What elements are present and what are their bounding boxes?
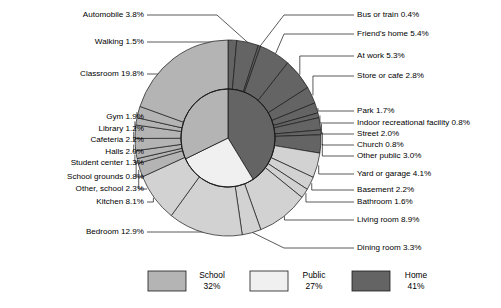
chart-label-cafeteria: Cafeteria 2.2% [90, 135, 144, 144]
chart-label-other-public: Other public 3.0% [357, 151, 421, 160]
legend-value-public: 27% [306, 281, 323, 291]
leader-line-friends-home [276, 34, 354, 54]
chart-label-indoor-rec: Indoor recreational facility 0.8% [357, 118, 470, 127]
legend-value-school: 32% [204, 281, 221, 291]
chart-label-student-center: Student center 1.3% [71, 158, 144, 167]
leader-line-store-or-cafe [313, 76, 354, 95]
labels-left-group: Automobile 3.8%Walking 1.5%Classroom 19.… [67, 10, 144, 236]
chart-label-gym: Gym 1.9% [106, 112, 144, 121]
nested-pie-chart: Automobile 3.8%Walking 1.5%Classroom 19.… [0, 0, 501, 308]
inner-pie-segments [181, 89, 275, 187]
chart-label-friends-home: Friend's home 5.4% [357, 29, 429, 38]
leader-line-living-room [284, 216, 354, 220]
chart-label-walking: Walking 1.5% [95, 37, 144, 46]
labels-right-group: Bus or train 0.4%Friend's home 5.4%At wo… [357, 10, 470, 252]
chart-label-kitchen: Kitchen 8.1% [96, 197, 144, 206]
leader-line-basement [312, 183, 354, 190]
leader-line-automobile [147, 15, 248, 43]
leader-line-dining-room [252, 232, 354, 248]
chart-label-automobile: Automobile 3.8% [83, 10, 144, 19]
chart-label-living-room: Living room 8.9% [357, 215, 420, 224]
chart-label-classroom: Classroom 19.8% [80, 69, 144, 78]
legend-swatch-public [250, 271, 288, 291]
chart-label-other-school: Other, school 2.3% [76, 184, 144, 193]
leader-line-at-work [300, 56, 354, 75]
legend-value-home: 41% [408, 281, 425, 291]
chart-label-halls: Halls 2.0% [105, 147, 144, 156]
leader-line-indoor-rec [320, 115, 354, 123]
chart-legend: School32%Public27%Home41% [148, 270, 428, 291]
legend-label-home: Home [405, 270, 428, 280]
leader-line-kitchen [147, 198, 153, 202]
chart-canvas: Automobile 3.8%Walking 1.5%Classroom 19.… [0, 0, 501, 308]
legend-label-school: School [199, 270, 225, 280]
chart-label-school-grounds: School grounds 0.8% [67, 172, 144, 181]
chart-label-street: Street 2.0% [357, 129, 399, 138]
leader-line-park [318, 108, 354, 111]
chart-label-park: Park 1.7% [357, 106, 394, 115]
chart-label-basement: Basement 2.2% [357, 185, 414, 194]
chart-label-dining-room: Dining room 3.3% [357, 243, 421, 252]
legend-swatch-school [148, 271, 186, 291]
chart-label-bathroom: Bathroom 1.6% [357, 197, 413, 206]
leader-line-yard-or-garage [319, 165, 354, 174]
chart-label-bus-or-train: Bus or train 0.4% [357, 10, 419, 19]
leader-line-street [321, 124, 354, 134]
chart-label-store-or-cafe: Store or cafe 2.8% [357, 71, 424, 80]
chart-label-yard-or-garage: Yard or garage 4.1% [357, 169, 431, 178]
legend-label-public: Public [303, 270, 326, 280]
leader-line-bus-or-train [260, 15, 354, 46]
leader-line-bathroom [306, 193, 354, 202]
chart-label-bedroom: Bedroom 12.9% [86, 227, 144, 236]
leader-line-other-public [322, 144, 354, 156]
chart-label-library: Library 1.2% [99, 124, 144, 133]
chart-label-at-work: At work 5.3% [357, 51, 405, 60]
legend-swatch-home [352, 271, 390, 291]
chart-label-church: Church 0.8% [357, 140, 404, 149]
